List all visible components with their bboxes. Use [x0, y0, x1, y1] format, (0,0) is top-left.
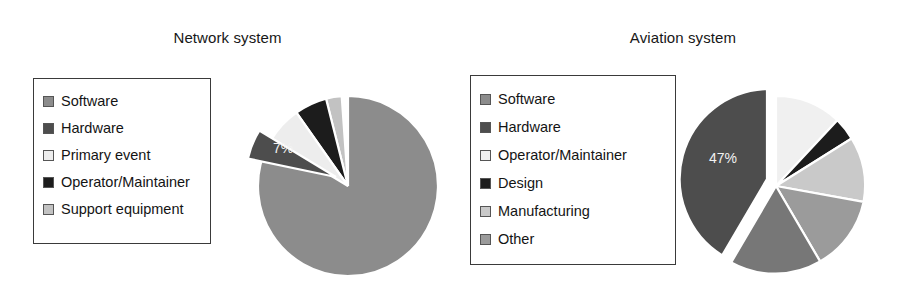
legend-item-label: Manufacturing [498, 204, 590, 219]
legend-swatch-icon [480, 122, 491, 133]
legend-swatch-icon [43, 123, 54, 134]
pie-svg-network: 7% [250, 88, 450, 288]
pie-svg-aviation: 47% [670, 80, 882, 292]
chart-panel-aviation: Aviation system Software Hardware Operat… [455, 0, 911, 296]
legend-network: Software Hardware Primary event Operator… [33, 78, 211, 244]
legend-item-operator-maintainer[interactable]: Operator/Maintainer [43, 169, 200, 196]
pie-chart-network: 7% [250, 88, 450, 288]
legend-aviation: Software Hardware Operator/Maintainer De… [470, 75, 676, 265]
legend-item-label: Software [61, 94, 118, 109]
legend-item-primary-event[interactable]: Primary event [43, 142, 200, 169]
legend-item-support-equipment[interactable]: Support equipment [43, 196, 200, 223]
legend-swatch-icon [480, 150, 491, 161]
pie-chart-aviation: 47% [670, 80, 882, 292]
legend-item-other[interactable]: Other [480, 225, 665, 253]
legend-item-label: Primary event [61, 148, 150, 163]
legend-item-hardware[interactable]: Hardware [43, 115, 200, 142]
page-title-aviation: Aviation system [455, 29, 911, 46]
page-title-network: Network system [0, 29, 455, 46]
legend-swatch-icon [480, 94, 491, 105]
legend-item-operator-maintainer[interactable]: Operator/Maintainer [480, 141, 665, 169]
chart-panel-network: Network system Software Hardware Primary… [0, 0, 455, 296]
legend-item-label: Operator/Maintainer [61, 175, 190, 190]
legend-item-label: Hardware [498, 120, 561, 135]
pie-chart-figure: Network system Software Hardware Primary… [0, 0, 911, 296]
legend-swatch-icon [43, 96, 54, 107]
pie-slice-label-software: 47% [709, 150, 737, 166]
pie-slice-label-hardware: 7% [273, 140, 293, 156]
legend-item-label: Support equipment [61, 202, 184, 217]
legend-swatch-icon [480, 206, 491, 217]
legend-list-network: Software Hardware Primary event Operator… [43, 88, 200, 223]
legend-item-software[interactable]: Software [43, 88, 200, 115]
legend-item-label: Design [498, 176, 543, 191]
legend-swatch-icon [43, 150, 54, 161]
legend-item-hardware[interactable]: Hardware [480, 113, 665, 141]
legend-item-label: Other [498, 232, 534, 247]
legend-item-label: Operator/Maintainer [498, 148, 627, 163]
legend-item-software[interactable]: Software [480, 85, 665, 113]
legend-item-label: Hardware [61, 121, 124, 136]
legend-swatch-icon [480, 234, 491, 245]
legend-swatch-icon [43, 204, 54, 215]
legend-item-label: Software [498, 92, 555, 107]
legend-item-manufacturing[interactable]: Manufacturing [480, 197, 665, 225]
legend-item-design[interactable]: Design [480, 169, 665, 197]
legend-list-aviation: Software Hardware Operator/Maintainer De… [480, 85, 665, 253]
legend-swatch-icon [480, 178, 491, 189]
legend-swatch-icon [43, 177, 54, 188]
